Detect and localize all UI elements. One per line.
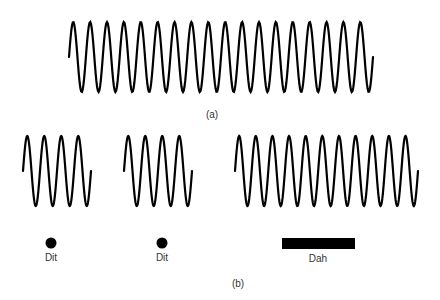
carrier-wave-a xyxy=(69,22,373,92)
dit-wave-2 xyxy=(124,136,192,206)
dit-label-1: Dit xyxy=(45,253,57,263)
dit-dot-1 xyxy=(46,238,57,249)
morse-waveform-diagram xyxy=(0,0,440,300)
dit-label-2: Dit xyxy=(156,253,168,263)
dit-wave-1 xyxy=(23,136,91,206)
dit-dot-2 xyxy=(157,238,168,249)
dah-bar xyxy=(282,238,355,249)
panel-a-label: (a) xyxy=(206,110,218,120)
panel-b-label: (b) xyxy=(232,279,244,289)
dah-wave xyxy=(235,136,418,206)
dah-label: Dah xyxy=(309,254,327,264)
